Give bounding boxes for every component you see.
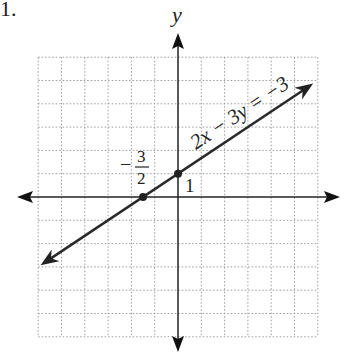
y-axis-label: y — [170, 2, 182, 27]
graph-line-left-arrow — [41, 250, 60, 266]
equation-label: 2x − 3y = −3 — [185, 71, 293, 154]
x-intercept-denominator: 2 — [137, 169, 146, 188]
coordinate-plane: y − 3 2 1 2x − 3y = −3 — [0, 0, 351, 355]
graph-line-right-arrow — [294, 84, 313, 100]
y-intercept-label: 1 — [185, 175, 195, 196]
intercept-point — [174, 170, 182, 178]
x-intercept-sign: − — [120, 153, 131, 175]
intercept-point — [139, 193, 147, 201]
x-intercept-numerator: 3 — [137, 147, 146, 166]
